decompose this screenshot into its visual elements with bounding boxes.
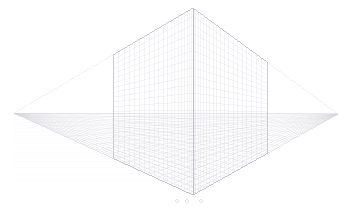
scene-background [0, 0, 358, 224]
perspective-grid-canvas: two-point perspective grid box [0, 0, 358, 224]
perspective-scene [0, 0, 358, 224]
